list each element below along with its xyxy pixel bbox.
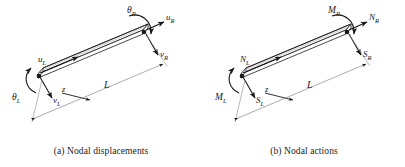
panel-a-caption: (a) Nodal displacements: [0, 146, 202, 156]
panel-a-label-u-left: uL: [38, 54, 47, 66]
panel-a-arrow-theta-left: [26, 68, 36, 93]
panel-a-label-axis-z: z: [61, 84, 66, 94]
panel-b-caption: (b) Nodal actions: [203, 146, 405, 156]
panel-b-label-s-right: SR: [363, 49, 372, 61]
panel-a-label-u-right: uR: [166, 12, 175, 24]
panel-b-label-axis-z: z: [264, 84, 269, 94]
panel-b-label-n-left: NL: [239, 54, 250, 66]
panel-b-beam: [241, 24, 351, 78]
panel-b-label-m-left: ML: [214, 92, 227, 104]
panel-a-beam: [38, 24, 148, 78]
panel-b-dim-line-length: [238, 64, 366, 118]
panel-b-label-length: L: [306, 79, 313, 90]
panel-b-label-n-right: NR: [368, 12, 379, 24]
panel-a-dim-line-length: [35, 64, 163, 118]
panel-a-dim-ext-right: [147, 36, 167, 66]
panel-a-label-v-right: vR: [160, 49, 168, 61]
panel-a-right-node: [142, 30, 147, 35]
panel-a-label-theta-right: θR: [127, 5, 136, 17]
panel-b-arrow-m-left: [229, 68, 239, 93]
panel-b-right-node: [345, 30, 350, 35]
panel-b-label-s-left: SL: [256, 95, 265, 107]
panel-b-label-m-right: MR: [327, 5, 340, 17]
beam-element-figure: uL vL θL uR vR θR z L NL SL ML N: [0, 0, 405, 167]
figure-canvas: uL vL θL uR vR θR z L NL SL ML N: [0, 0, 405, 167]
panel-a-label-v-left: vL: [53, 95, 61, 107]
panel-a-label-length: L: [103, 79, 110, 90]
panel-a-label-theta-left: θL: [12, 92, 21, 104]
